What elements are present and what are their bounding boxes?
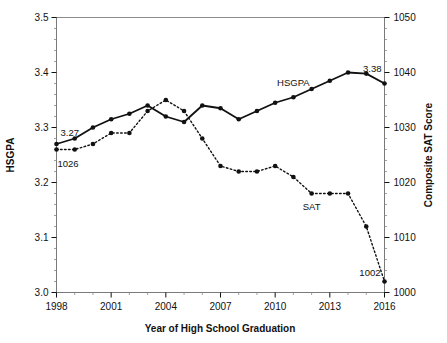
- data-point-marker: [200, 103, 205, 108]
- annotation-sat: SAT: [303, 201, 321, 212]
- data-point-marker: [91, 142, 96, 147]
- data-point-marker: [145, 109, 150, 114]
- annotation-1026: 1026: [58, 158, 79, 169]
- x-axis-title: Year of High School Graduation: [145, 323, 296, 334]
- data-point-marker: [54, 147, 59, 152]
- data-point-marker: [309, 191, 314, 196]
- left-axis-tick-label: 3.4: [35, 67, 49, 78]
- left-axis-tick-label: 3.0: [35, 287, 49, 298]
- data-point-marker: [182, 120, 187, 125]
- data-point-marker: [255, 169, 260, 174]
- data-point-marker: [109, 131, 114, 136]
- chart-container: 3.03.13.23.33.43.5 100010101020103010401…: [0, 0, 447, 343]
- annotation-3.27: 3.27: [61, 127, 80, 138]
- annotation-hsgpa: HSGPA: [277, 77, 310, 88]
- data-point-marker: [109, 117, 114, 122]
- data-point-marker: [54, 142, 59, 147]
- data-point-marker: [291, 95, 296, 100]
- data-point-marker: [273, 100, 278, 105]
- annotation-3.38: 3.38: [363, 63, 382, 74]
- left-axis-tick-label: 3.3: [35, 122, 49, 133]
- data-point-marker: [273, 164, 278, 169]
- secondary-y-axis-title: Composite SAT Score: [423, 102, 434, 207]
- data-point-marker: [291, 175, 296, 180]
- data-point-marker: [182, 109, 187, 114]
- data-point-marker: [328, 191, 333, 196]
- data-point-marker: [127, 131, 132, 136]
- data-point-marker: [346, 191, 351, 196]
- x-axis-tick-label: 2007: [209, 301, 232, 312]
- left-axis-tick-label: 3.2: [35, 177, 49, 188]
- chart-background: [0, 0, 447, 343]
- data-point-marker: [328, 78, 333, 83]
- right-axis-tick-label: 1030: [394, 122, 417, 133]
- data-point-marker: [346, 70, 351, 75]
- right-axis-tick-label: 1010: [394, 232, 417, 243]
- right-axis-tick-label: 1040: [394, 67, 417, 78]
- y-axis-title: HSGPA: [5, 138, 16, 173]
- data-point-marker: [200, 136, 205, 141]
- left-axis-tick-label: 3.1: [35, 232, 49, 243]
- x-axis-tick-label: 2001: [100, 301, 123, 312]
- data-point-marker: [309, 87, 314, 92]
- data-point-marker: [127, 111, 132, 116]
- data-point-marker: [382, 81, 387, 86]
- data-point-marker: [236, 117, 241, 122]
- data-point-marker: [255, 109, 260, 114]
- data-point-marker: [91, 125, 96, 130]
- data-point-marker: [218, 164, 223, 169]
- x-axis-tick-label: 2004: [155, 301, 178, 312]
- data-point-marker: [236, 169, 241, 174]
- line-chart-figure: 3.03.13.23.33.43.5 100010101020103010401…: [0, 0, 447, 343]
- x-axis-tick-label: 2010: [264, 301, 287, 312]
- annotation-1002: 1002: [359, 267, 380, 278]
- data-point-marker: [145, 103, 150, 108]
- right-axis-tick-label: 1020: [394, 177, 417, 188]
- data-point-marker: [164, 114, 169, 119]
- right-axis-tick-label: 1000: [394, 287, 417, 298]
- data-point-marker: [164, 98, 169, 103]
- x-axis-tick-label: 2013: [319, 301, 342, 312]
- data-point-marker: [382, 279, 387, 284]
- x-axis-tick-label: 2016: [373, 301, 396, 312]
- data-point-marker: [364, 224, 369, 229]
- data-point-marker: [218, 106, 223, 111]
- data-point-marker: [72, 147, 77, 152]
- left-axis-tick-label: 3.5: [35, 12, 49, 23]
- x-axis-tick-label: 1998: [45, 301, 68, 312]
- right-axis-tick-label: 1050: [394, 12, 417, 23]
